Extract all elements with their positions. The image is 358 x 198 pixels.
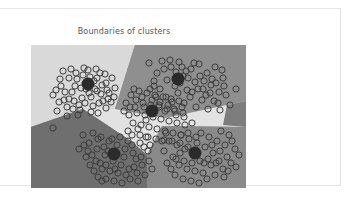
centroid-marker <box>146 105 159 118</box>
chart-card: Boundaries of clusters <box>0 8 341 186</box>
centroid-marker <box>82 78 95 91</box>
page-root: Boundaries of clusters <box>0 0 358 198</box>
plot-svg <box>31 45 246 188</box>
centroid-marker <box>108 148 121 161</box>
centroid-marker <box>189 147 202 160</box>
chart-title: Boundaries of clusters <box>0 27 248 37</box>
cluster-boundary-plot <box>31 45 246 188</box>
centroid-marker <box>172 73 185 86</box>
